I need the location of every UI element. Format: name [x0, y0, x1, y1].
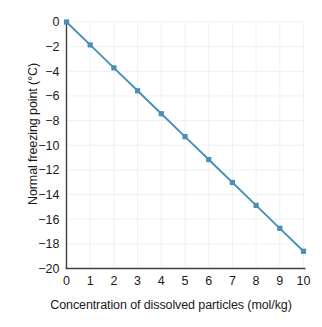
svg-text:−10: −10 — [38, 139, 59, 153]
data-point — [111, 65, 116, 70]
gridlines — [67, 22, 304, 269]
x-tick-labels: 012345678910 — [63, 274, 310, 288]
data-point — [135, 88, 140, 93]
svg-text:6: 6 — [205, 274, 212, 288]
svg-text:8: 8 — [253, 274, 260, 288]
data-point — [277, 226, 282, 231]
svg-text:0: 0 — [63, 274, 70, 288]
data-point — [88, 42, 93, 47]
svg-text:7: 7 — [229, 274, 236, 288]
svg-text:10: 10 — [297, 274, 311, 288]
svg-text:1: 1 — [87, 274, 94, 288]
y-tick-labels: 0−2−4−6−8−10−12−14−16−18−20 — [38, 15, 59, 276]
data-point — [254, 203, 259, 208]
plot-area: 0−2−4−6−8−10−12−14−16−18−20 012345678910 — [0, 0, 322, 327]
svg-text:−12: −12 — [38, 163, 59, 177]
svg-text:−6: −6 — [45, 89, 59, 103]
data-point — [64, 19, 69, 24]
svg-text:0: 0 — [53, 15, 60, 29]
svg-text:−2: −2 — [45, 40, 59, 54]
svg-text:−18: −18 — [38, 237, 59, 251]
svg-text:4: 4 — [158, 274, 165, 288]
data-point — [206, 157, 211, 162]
data-point — [182, 134, 187, 139]
svg-text:−16: −16 — [38, 213, 59, 227]
svg-text:9: 9 — [276, 274, 283, 288]
data-point — [230, 180, 235, 185]
svg-text:5: 5 — [182, 274, 189, 288]
data-point — [159, 111, 164, 116]
svg-text:2: 2 — [110, 274, 117, 288]
svg-text:3: 3 — [134, 274, 141, 288]
svg-text:−8: −8 — [45, 114, 59, 128]
svg-text:−20: −20 — [38, 262, 59, 276]
svg-text:−4: −4 — [45, 65, 59, 79]
data-point — [301, 249, 306, 254]
chart-figure: Normal freezing point (°C) Concentration… — [0, 0, 322, 327]
svg-text:−14: −14 — [38, 188, 59, 202]
